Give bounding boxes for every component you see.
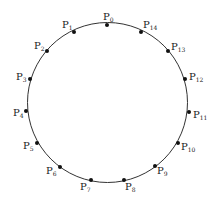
point-marker-p0 [105, 23, 109, 27]
point-label-p2: P2 [34, 40, 45, 52]
point-marker-p13 [166, 49, 170, 53]
point-marker-p10 [176, 141, 180, 145]
points-group: P0P1P2P3P4P5P6P7P8P9P10P11P12P13P14 [13, 11, 207, 193]
point-label-p10: P10 [181, 141, 196, 153]
point-marker-p6 [58, 165, 62, 169]
point-marker-p2 [45, 49, 49, 53]
point-label-p11: P11 [193, 109, 207, 121]
point-marker-p14 [139, 30, 143, 34]
point-label-p0: P0 [103, 11, 114, 23]
point-marker-p3 [28, 77, 32, 81]
circle-diagram: P0P1P2P3P4P5P6P7P8P9P10P11P12P13P14 [0, 0, 217, 202]
point-marker-p7 [89, 178, 93, 182]
point-label-p13: P13 [171, 41, 186, 53]
point-label-p5: P5 [23, 140, 34, 152]
point-label-p1: P1 [62, 19, 73, 31]
point-label-p12: P12 [189, 71, 204, 83]
point-marker-p1 [72, 30, 76, 34]
circle [28, 23, 188, 183]
point-label-p6: P6 [46, 165, 57, 177]
point-marker-p12 [183, 77, 187, 81]
point-label-p3: P3 [16, 71, 27, 83]
point-marker-p11 [187, 110, 191, 114]
point-label-p4: P4 [13, 107, 24, 119]
point-label-p7: P7 [80, 181, 91, 193]
point-label-p14: P14 [143, 19, 158, 31]
point-label-p9: P9 [157, 165, 168, 177]
point-marker-p4 [24, 109, 28, 113]
point-marker-p5 [35, 141, 39, 145]
point-label-p8: P8 [125, 181, 136, 193]
